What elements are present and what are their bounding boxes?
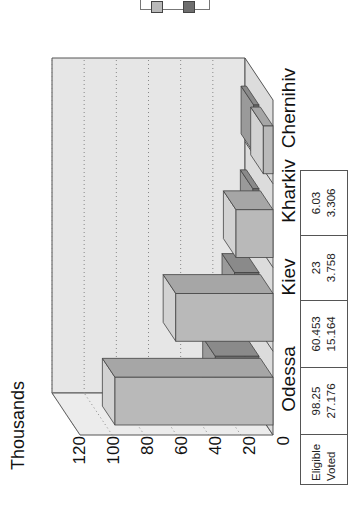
bar-eligible-kiev-front [176, 294, 273, 342]
y-tick-80: 80 [138, 436, 158, 476]
table-cell-kiev: 60.453 15.164 [301, 300, 348, 367]
legend-swatch-voted [183, 1, 195, 13]
value-kharkiv-voted: 3.758 [324, 236, 339, 300]
legend [140, 0, 210, 10]
y-tick-0: 0 [274, 436, 294, 476]
bar-eligible-chernihiv-front [263, 126, 273, 174]
rotated-chart-frame: Thousands 120 100 80 60 40 20 0 Odessa K… [0, 0, 364, 518]
value-kharkiv-eligible: 23 [309, 236, 324, 300]
value-odessa-voted: 27.176 [324, 368, 339, 434]
y-tick-120: 120 [70, 436, 90, 476]
value-odessa-eligible: 98.25 [309, 368, 324, 434]
table-row-labels: Eligible Voted [301, 435, 348, 485]
y-tick-100: 100 [104, 436, 124, 476]
value-kiev-eligible: 60.453 [309, 301, 324, 367]
bar-eligible-kiev-side [163, 275, 273, 294]
data-table: Eligible Voted 98.25 27.176 60.453 15.16… [300, 170, 348, 485]
y-tick-20: 20 [240, 436, 260, 476]
value-kiev-voted: 15.164 [324, 301, 339, 367]
bar-eligible-odessa-side [102, 358, 273, 377]
y-tick-60: 60 [172, 436, 192, 476]
category-label-odessa: Odessa [278, 324, 300, 434]
row-label-eligible: Eligible [309, 435, 324, 481]
y-axis-title: Thousands [8, 381, 29, 470]
bar-eligible-kharkiv-front [236, 210, 273, 258]
table-cell-chernihiv: 6.03 3.306 [301, 171, 348, 236]
y-tick-40: 40 [206, 436, 226, 476]
legend-swatch-eligible [151, 1, 163, 13]
category-label-chernihiv: Chernihiv [278, 53, 300, 163]
value-chernihiv-voted: 3.306 [324, 171, 339, 235]
table-cell-kharkiv: 23 3.758 [301, 235, 348, 300]
bar-eligible-odessa-front [115, 377, 273, 425]
row-label-voted: Voted [324, 435, 339, 481]
value-chernihiv-eligible: 6.03 [309, 171, 324, 235]
table-cell-odessa: 98.25 27.176 [301, 367, 348, 434]
